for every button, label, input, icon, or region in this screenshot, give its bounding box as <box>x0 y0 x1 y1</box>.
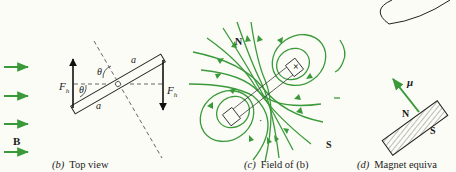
loop-outline-top <box>380 0 392 24</box>
normal-dashed-line <box>94 41 162 158</box>
north-label-d: N <box>402 108 410 119</box>
caption-c: (c)Field of (b) <box>244 159 309 171</box>
loop-outline-top <box>389 0 450 24</box>
field-label-b: B <box>13 135 21 147</box>
caption-b: (b)Top view <box>52 159 109 171</box>
angle-label-upper: θ <box>97 66 102 77</box>
loop-top-view <box>71 41 166 158</box>
current-in-symbol: × <box>293 61 299 72</box>
moment-label: μ <box>406 76 413 88</box>
field-line-fragment <box>335 40 345 72</box>
south-label-d: S <box>430 125 436 136</box>
force-label-right: Fh <box>166 84 178 99</box>
length-label-lower: a <box>96 100 101 111</box>
length-label-upper: a <box>131 54 136 65</box>
angle-label-lower: θ <box>79 84 84 95</box>
force-label-left: Fh <box>58 80 70 95</box>
current-out-symbol: · <box>259 115 262 126</box>
conductor-out-icon <box>222 107 240 125</box>
bar-magnet <box>382 101 448 156</box>
north-label-c: N <box>235 36 243 47</box>
dipole-field-lines <box>189 22 336 162</box>
south-label-c: S <box>326 139 332 150</box>
caption-d: (d)Magnet equiva <box>357 159 437 171</box>
